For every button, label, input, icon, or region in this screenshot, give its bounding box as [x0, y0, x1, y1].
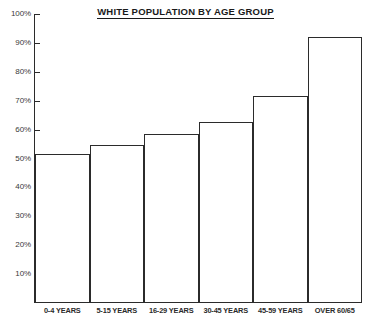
y-axis-tick-label: 70%: [0, 96, 31, 105]
bar: [144, 134, 199, 303]
bar: [199, 122, 254, 303]
x-axis-tick-label: 5-15 YEARS: [90, 306, 145, 315]
y-axis-tick-label: 80%: [0, 67, 31, 76]
y-axis-tick: [35, 43, 40, 44]
x-axis-tick-label: 45-59 YEARS: [253, 306, 308, 315]
x-axis-baseline: [34, 302, 362, 303]
x-axis-tick-label: OVER 60/65: [308, 306, 363, 315]
bar: [253, 96, 308, 303]
chart-title-text: WHITE POPULATION BY AGE GROUP: [97, 6, 274, 19]
y-axis-tick-label: 90%: [0, 38, 31, 47]
y-axis-tick: [35, 130, 40, 131]
x-axis-tick-label: 16-29 YEARS: [144, 306, 199, 315]
bar: [35, 154, 90, 303]
y-axis-tick: [35, 101, 40, 102]
x-axis-tick-label: 0-4 YEARS: [35, 306, 90, 315]
y-axis-tick-label: 50%: [0, 154, 31, 163]
y-axis-tick-label: 30%: [0, 211, 31, 220]
y-axis-tick: [35, 14, 40, 15]
bar: [90, 145, 145, 303]
y-axis-tick-label: 100%: [0, 9, 31, 18]
y-axis-tick-label: 20%: [0, 240, 31, 249]
y-axis-tick-label: 40%: [0, 182, 31, 191]
y-axis-tick-label: 60%: [0, 125, 31, 134]
y-axis-tick: [35, 72, 40, 73]
chart-page: WHITE POPULATION BY AGE GROUP 100%90%80%…: [0, 0, 371, 328]
bar: [308, 37, 363, 303]
y-axis-tick-label: 10%: [0, 269, 31, 278]
x-axis-tick-label: 30-45 YEARS: [199, 306, 254, 315]
chart-title: WHITE POPULATION BY AGE GROUP: [0, 6, 371, 17]
